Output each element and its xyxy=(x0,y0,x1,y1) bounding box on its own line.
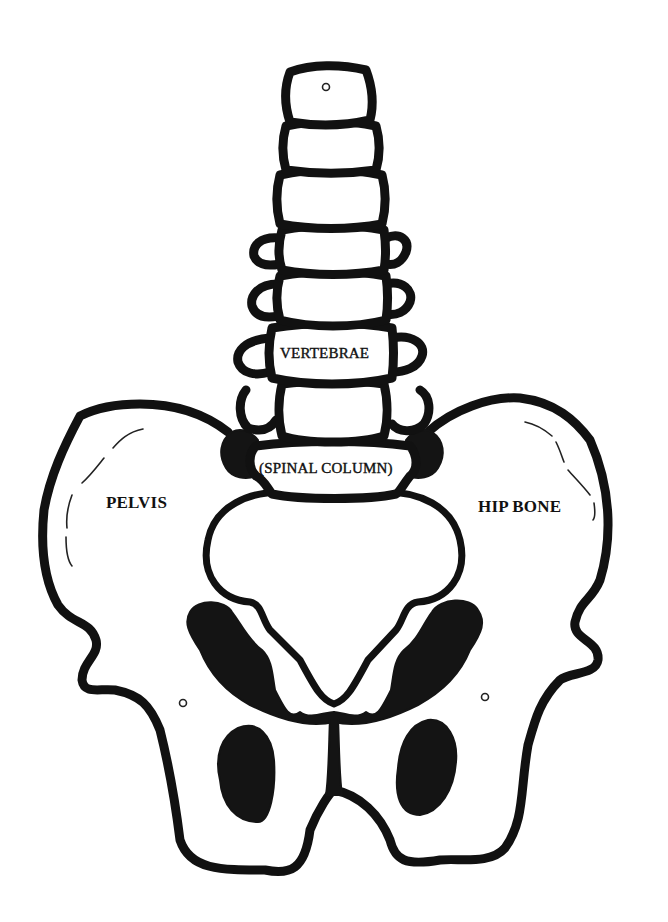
label-hip-bone: HIP BONE xyxy=(478,497,561,517)
vertebra-5 xyxy=(277,272,388,327)
pelvis-marker-left xyxy=(180,700,187,707)
spine-group xyxy=(221,66,443,499)
pelvis-marker-right xyxy=(482,694,489,701)
vertebra-7 xyxy=(279,381,387,442)
vertebra-marker xyxy=(323,84,330,91)
label-spinal-column: (SPINAL COLUMN) xyxy=(259,460,393,477)
pubic-symphysis xyxy=(326,718,342,795)
label-vertebrae: VERTEBRAE xyxy=(280,345,369,362)
vertebra-3 xyxy=(277,170,385,229)
vertebra-1 xyxy=(286,66,373,125)
label-pelvis: PELVIS xyxy=(106,493,167,513)
